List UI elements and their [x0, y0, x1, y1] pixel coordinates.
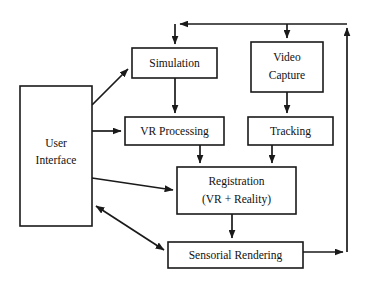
sensorial-rendering-label: Sensorial Rendering: [189, 249, 283, 262]
diagram-root: User Interface Simulation Video Capture …: [0, 0, 368, 283]
node-sensorial-rendering[interactable]: Sensorial Rendering: [168, 242, 303, 268]
node-simulation[interactable]: Simulation: [132, 48, 217, 78]
edge-user-interface-to-registration: [92, 178, 173, 190]
node-video-capture[interactable]: Video Capture: [251, 42, 323, 92]
vr-processing-label: VR Processing: [140, 125, 209, 138]
simulation-label: Simulation: [149, 57, 200, 69]
user-interface-label-line2: Interface: [36, 154, 77, 166]
registration-label-line1: Registration: [208, 175, 264, 188]
edge-user-interface-to-simulation: [92, 69, 128, 105]
tracking-label: Tracking: [270, 125, 311, 138]
edge-user-interface-sensorial-rendering-bidirectional: [96, 206, 164, 250]
node-tracking[interactable]: Tracking: [248, 117, 333, 145]
nodes-layer: User Interface Simulation Video Capture …: [20, 42, 333, 268]
video-capture-label-line2: Capture: [269, 69, 305, 82]
registration-label-line2: (VR + Reality): [202, 193, 271, 206]
video-capture-label-line1: Video: [273, 51, 301, 63]
node-vr-processing[interactable]: VR Processing: [125, 117, 224, 145]
node-user-interface[interactable]: User Interface: [20, 86, 92, 226]
video-capture-box[interactable]: [251, 42, 323, 92]
user-interface-label-line1: User: [45, 137, 67, 149]
system-block-diagram: User Interface Simulation Video Capture …: [0, 0, 368, 283]
node-registration[interactable]: Registration (VR + Reality): [177, 167, 296, 214]
